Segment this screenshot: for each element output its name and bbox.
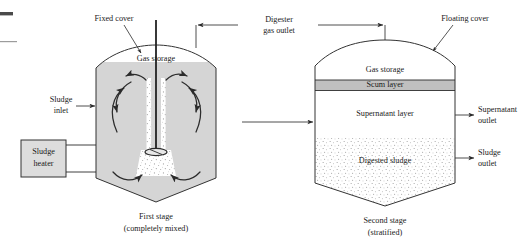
digester-gas-outlet-label-line2: gas outlet: [263, 26, 295, 35]
stage1-gas-storage-label: Gas storage: [137, 54, 176, 63]
supernatant-outlet-label-line2: outlet: [478, 116, 497, 125]
page-edge-mark-bottom: [0, 41, 17, 42]
stage2-caption-line2: (stratified): [368, 228, 403, 237]
floating-cover-label: Floating cover: [441, 14, 489, 23]
stage1-draft-tube-left: [147, 78, 152, 152]
floating-cover-leader: [433, 25, 453, 51]
stage1-draft-tube-right: [161, 78, 166, 152]
page-edge-mark-top: [0, 12, 13, 15]
stage2-gas-space: [310, 36, 460, 81]
stage2-supernatant-layer-label: Supernatant layer: [356, 109, 414, 118]
sludge-inlet-label-line2: inlet: [54, 106, 69, 115]
sludge-heater-label-line2: heater: [34, 159, 54, 168]
sludge-inlet-label-line1: Sludge: [50, 95, 73, 104]
stage2-gas-storage-label: Gas storage: [366, 65, 405, 74]
stage2-digested-sludge-band: [310, 138, 460, 210]
stage1-caption-line1: First stage: [139, 212, 173, 221]
fixed-cover-label: Fixed cover: [95, 14, 134, 23]
stage2-digested-sludge-label: Digested sludge: [359, 156, 412, 165]
stage2-scum-layer-label: Scum layer: [366, 80, 403, 89]
digester-gas-outlet-label-line1: Digester: [265, 15, 293, 24]
digester-figure: Fixed cover Gas storage Sludge inlet Slu…: [0, 0, 528, 249]
stage-1-digester: Fixed cover Gas storage Sludge inlet Slu…: [21, 14, 222, 233]
sludge-outlet-label-line2: outlet: [478, 159, 497, 168]
stage2-caption-line1: Second stage: [364, 216, 407, 225]
stage1-caption-line2: (completely mixed): [124, 224, 189, 233]
sludge-heater-label-line1: Sludge: [32, 147, 55, 156]
supernatant-outlet-label-line1: Supernatant: [478, 105, 518, 114]
sludge-outlet-label-line1: Sludge: [478, 148, 501, 157]
stage-2-digester: Gas storage Scum layer Supernatant layer…: [310, 14, 518, 237]
